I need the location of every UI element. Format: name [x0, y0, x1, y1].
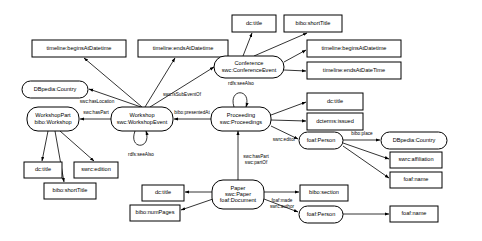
- node-label: foaf:Document: [220, 197, 257, 203]
- graph-edge: bibo:presentedAt: [174, 110, 211, 119]
- node-label: swrc:affiliation: [398, 156, 433, 162]
- graph-node-dc_title_ws[interactable]: dc:title: [24, 162, 62, 178]
- node-label: dc:title: [246, 20, 262, 26]
- graph-node-tl_ends_right[interactable]: timeline:endsAtDateTime: [307, 62, 401, 79]
- graph-node-bibo_short_conf[interactable]: bibo:shortTitle: [284, 15, 342, 32]
- graph-edge: [145, 58, 175, 107]
- node-label: foaf:name: [402, 210, 427, 216]
- node-label: Proceeding: [227, 112, 255, 118]
- edge-line: [181, 199, 213, 210]
- node-label: bibo:numPages: [136, 209, 175, 215]
- graph-edge: [271, 102, 306, 115]
- edge-line: [134, 131, 147, 145]
- node-label: bibo:shortTitle: [53, 187, 88, 193]
- node-label: dc:title: [155, 189, 171, 195]
- node-label: timeline:beginsAtDatetime: [47, 45, 112, 51]
- graph-node-foaf_name_ed[interactable]: foaf:name: [390, 172, 442, 188]
- edge-line: [243, 33, 252, 56]
- graph-edge: [271, 120, 306, 121]
- graph-edge: swc:hasPartswc:partOf: [238, 131, 269, 180]
- edge-line: [150, 67, 214, 107]
- graph-node-bibo_short_ws[interactable]: bibo:shortTitle: [44, 183, 96, 199]
- graph-node-swrc_affiliation[interactable]: swrc:affiliation: [390, 152, 442, 168]
- edge-line: [89, 89, 141, 107]
- edge-line: [42, 131, 48, 161]
- graph-node-foaf_person_ed[interactable]: foaf:Person: [299, 132, 343, 149]
- node-label: foaf:Person: [307, 211, 336, 217]
- graph-edge: [254, 33, 307, 56]
- edge-line: [60, 131, 94, 161]
- graph-edge: bibo:place: [343, 131, 380, 140]
- node-label: Workshop: [129, 112, 154, 118]
- edge-line: [284, 50, 306, 62]
- ontology-diagram: swc:isSubEventOfswc:hasLocationswc:hasPa…: [0, 0, 482, 241]
- node-label: WorkshopPart: [35, 112, 71, 118]
- graph-node-dc_title_proc[interactable]: dc:title: [307, 93, 363, 110]
- node-label: swc:WorkshopEvent: [117, 119, 168, 125]
- edge-label: swc:hasPart: [83, 110, 109, 115]
- graph-node-tl_ends_left[interactable]: timeline:endsAtDatetime: [138, 40, 228, 57]
- graph-node-tl_begins_left[interactable]: timeline:beginsAtDatetime: [32, 40, 126, 57]
- node-label: bibo:section: [309, 189, 339, 195]
- graph-edge: swc:isSubEventOf: [150, 67, 214, 107]
- node-label: dcterms:issued: [316, 118, 354, 124]
- graph-edge: swc:hasPart: [80, 110, 111, 119]
- edge-label: bibo:place: [351, 131, 373, 136]
- edge-label: bibo:presentedAt: [174, 110, 210, 115]
- graph-canvas: swc:isSubEventOfswc:hasLocationswc:hasPa…: [0, 0, 482, 241]
- graph-node-conference[interactable]: Conferenceswc:ConferenceEvent: [214, 56, 284, 78]
- node-label: swc:ConferenceEvent: [222, 67, 277, 73]
- edge-line: [233, 93, 247, 107]
- graph-edge: swrc:editor: [271, 126, 298, 142]
- graph-edge: [284, 70, 306, 71]
- edge-label: rdfs:seeAlso: [228, 81, 254, 86]
- graph-edge: [42, 131, 48, 161]
- graph-edge: [243, 33, 252, 56]
- graph-node-workshop[interactable]: Workshopswc:WorkshopEvent: [111, 107, 173, 131]
- graph-node-proceeding[interactable]: Proceedingswc:Proceedings: [211, 107, 271, 131]
- graph-node-foaf_person_au[interactable]: foaf:Person: [299, 206, 343, 223]
- edge-label: foaf:madeswrc:author: [270, 199, 295, 209]
- graph-node-tl_begins_right[interactable]: timeline:beginsAtDatetime: [307, 40, 401, 57]
- graph-node-paper[interactable]: Paperswc:Paperfoaf:Document: [212, 180, 264, 209]
- graph-edge: foaf:madeswrc:author: [264, 199, 298, 212]
- node-label: swc:Proceedings: [220, 119, 262, 125]
- node-label: foaf:Person: [307, 137, 336, 143]
- edge-label: rdfs:seeAlso: [128, 152, 154, 157]
- graph-edge: [284, 50, 306, 62]
- node-label: dc:title: [327, 98, 343, 104]
- graph-node-workshop_part[interactable]: WorkshopPartbibo:Workshop: [27, 107, 79, 131]
- node-label: foaf:name: [404, 176, 429, 182]
- graph-node-bibo_numpages[interactable]: bibo:numPages: [130, 205, 180, 221]
- edge-label: swc:hasLocation: [80, 99, 115, 104]
- graph-node-swrc_edition[interactable]: swrc:edition: [74, 162, 118, 178]
- graph-node-foaf_name_au[interactable]: foaf:name: [390, 206, 438, 222]
- graph-node-dc_title_paper[interactable]: dc:title: [142, 185, 184, 201]
- node-label: DBpedia:Country: [34, 86, 77, 92]
- graph-node-dbpedia_country_r[interactable]: DBpedia:Country: [381, 132, 447, 149]
- graph-node-dc_title_conf[interactable]: dc:title: [232, 15, 276, 32]
- node-label: dc:title: [35, 166, 51, 172]
- edge-label: swc:hasPartswc:partOf: [243, 155, 269, 165]
- node-label: Paper: [231, 185, 246, 191]
- node-label: swc:Paper: [225, 191, 251, 197]
- node-label: Conference: [235, 60, 264, 66]
- graph-node-dbpedia_country_l[interactable]: DBpedia:Country: [22, 81, 88, 98]
- node-label: bibo:Workshop: [34, 119, 71, 125]
- edge-label: swrc:editor: [273, 137, 296, 142]
- node-label: bibo:shortTitle: [296, 20, 331, 26]
- node-label: timeline:endsAtDatetime: [153, 45, 214, 51]
- graph-edge: [60, 131, 94, 161]
- node-label: timeline:endsAtDateTime: [323, 67, 385, 73]
- graph-node-bibo_section[interactable]: bibo:section: [300, 185, 348, 201]
- edge-label: swc:isSubEventOf: [163, 92, 202, 97]
- node-label: DBpedia:Country: [393, 137, 436, 143]
- graph-edge: rdfs:seeAlso: [128, 131, 154, 157]
- edge-line: [254, 33, 307, 56]
- node-label: swrc:edition: [81, 166, 111, 172]
- graph-edge: rdfs:seeAlso: [228, 81, 254, 107]
- edge-line: [284, 70, 306, 71]
- graph-node-dcterms_issued[interactable]: dcterms:issued: [307, 113, 363, 130]
- edge-line: [145, 58, 175, 107]
- edge-line: [271, 120, 306, 121]
